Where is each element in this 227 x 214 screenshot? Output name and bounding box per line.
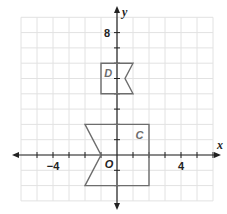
- coordinate-plane: CD x y O −448: [0, 0, 227, 214]
- x-axis-label: x: [216, 138, 223, 152]
- tick-label-y-8: 8: [104, 27, 110, 39]
- shape-label-d: D: [104, 67, 112, 79]
- y-axis-down-arrow-icon: [114, 203, 120, 210]
- origin-label: O: [105, 158, 114, 170]
- x-axis-left-arrow-icon: [12, 152, 19, 158]
- axes: [12, 6, 221, 210]
- x-axis-right-arrow-icon: [214, 152, 221, 158]
- tick-label-x-neg4: −4: [47, 160, 60, 172]
- shape-label-c: C: [135, 129, 144, 141]
- y-axis-label: y: [120, 5, 128, 19]
- tick-label-x-4: 4: [178, 160, 185, 172]
- y-axis-up-arrow-icon: [114, 6, 120, 13]
